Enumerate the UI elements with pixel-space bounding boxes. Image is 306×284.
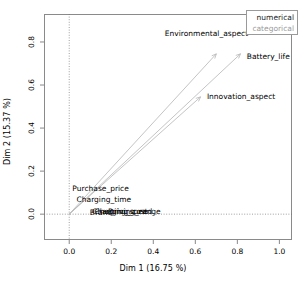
legend: numerical categorical <box>246 10 298 35</box>
variable-label: Environmental_aspect <box>165 29 248 38</box>
chart-root: 0.00.20.40.60.81.0 0.00.20.40.60.8 Envir… <box>0 0 306 284</box>
variable-label: Innovation_aspect <box>207 92 275 101</box>
y-tick-label: 0.0 <box>27 208 36 220</box>
y-tick-label: 0.6 <box>27 79 36 91</box>
x-tick-label: 0.6 <box>189 247 201 256</box>
y-tick-label: 0.8 <box>27 36 36 48</box>
x-tick-label: 0.0 <box>63 247 75 256</box>
plot-canvas <box>0 0 306 284</box>
legend-item-numerical: numerical <box>250 12 294 23</box>
variable-label: Brand <box>90 208 112 217</box>
x-tick-label: 1.0 <box>273 247 285 256</box>
legend-item-categorical: categorical <box>250 23 294 34</box>
x-tick-label: 0.2 <box>105 247 117 256</box>
y-tick-label: 0.4 <box>27 122 36 134</box>
reference-lines <box>44 14 292 240</box>
x-axis-title: Dim 1 (16.75 %) <box>0 264 306 273</box>
variable-label: Purchase_price <box>72 184 128 193</box>
y-axis-title: Dim 2 (15.37 %) <box>3 72 12 192</box>
x-tick-label: 0.8 <box>231 247 243 256</box>
variable-label: Battery_life <box>247 52 290 61</box>
y-tick-label: 0.2 <box>27 165 36 177</box>
variable-label: Charging_time <box>77 195 132 204</box>
x-tick-label: 0.4 <box>147 247 159 256</box>
